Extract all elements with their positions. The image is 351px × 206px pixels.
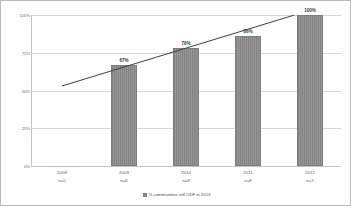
chart-legend: % communities still ODF in 2013 — [1, 192, 351, 197]
bar-value-label: 78% — [181, 41, 190, 46]
bar[interactable] — [111, 65, 137, 166]
bar-group: 100% — [297, 15, 323, 166]
y-axis-tick-label: 75% — [4, 50, 30, 55]
bar-group: 67% — [111, 15, 137, 166]
bar-group: 86% — [235, 15, 261, 166]
bar-value-label: 100% — [304, 8, 316, 13]
x-axis-sample-size: n=9 — [155, 177, 217, 185]
bar[interactable] — [235, 36, 261, 166]
bar-group: 78% — [173, 15, 199, 166]
y-axis-tick-label: 0% — [4, 164, 30, 169]
plot-area: 67%78%86%100% — [31, 15, 341, 166]
y-axis-line — [31, 15, 32, 166]
gridline — [31, 166, 341, 167]
x-axis-sample-size: n=6 — [93, 177, 155, 185]
chart-container: 0%25%50%75%100% 67%78%86%100% 2008n=0200… — [0, 0, 351, 206]
y-axis-tick-label: 100% — [4, 13, 30, 18]
x-axis-year: 2012 — [279, 169, 341, 177]
legend-swatch-icon — [143, 193, 147, 197]
x-axis-sample-size: n=8 — [217, 177, 279, 185]
bar-value-label: 67% — [119, 58, 128, 63]
y-axis-tick-label: 50% — [4, 88, 30, 93]
x-axis-year: 2010 — [155, 169, 217, 177]
bar-value-label: 86% — [243, 29, 252, 34]
x-axis-year: 2009 — [93, 169, 155, 177]
x-axis-tick-label: 2011n=8 — [217, 169, 279, 184]
bar-group — [49, 15, 75, 166]
x-axis-tick-label: 2012n=7 — [279, 169, 341, 184]
x-axis-sample-size: n=7 — [279, 177, 341, 185]
y-axis-tick-labels: 0%25%50%75%100% — [1, 15, 30, 166]
x-axis-year: 2008 — [31, 169, 93, 177]
legend-label: % communities still ODF in 2013 — [149, 192, 211, 197]
x-axis-tick-label: 2010n=9 — [155, 169, 217, 184]
x-axis-sample-size: n=0 — [31, 177, 93, 185]
x-axis-tick-label: 2008n=0 — [31, 169, 93, 184]
bar[interactable] — [173, 48, 199, 166]
bar[interactable] — [297, 15, 323, 166]
x-axis-tick-labels: 2008n=02009n=62010n=92011n=82012n=7 — [31, 169, 341, 191]
x-axis-tick-label: 2009n=6 — [93, 169, 155, 184]
y-axis-tick-label: 25% — [4, 126, 30, 131]
x-axis-year: 2011 — [217, 169, 279, 177]
